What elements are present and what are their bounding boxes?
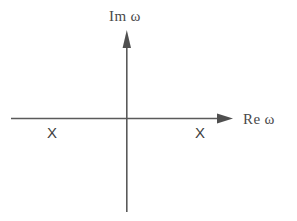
real-axis-label: Re ω bbox=[243, 112, 275, 127]
imaginary-axis-label: Im ω bbox=[109, 9, 141, 24]
right-arrow-icon bbox=[217, 114, 233, 124]
pole-marker-left: X bbox=[47, 125, 57, 140]
up-arrow-icon bbox=[123, 30, 131, 48]
complex-plane-figure: Im ω Re ω X X bbox=[0, 0, 297, 221]
pole-marker-right: X bbox=[195, 125, 205, 140]
